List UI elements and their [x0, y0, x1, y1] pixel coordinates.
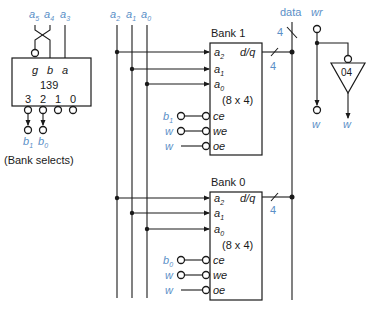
write-logic: wr 04 w w: [311, 6, 365, 130]
bank-0-oe-bubble: [203, 287, 210, 294]
bank-1-pin-ce: ce: [213, 110, 225, 122]
bank-0-pin-oe: oe: [213, 284, 225, 296]
bank-0-ce-terminal: [178, 257, 185, 264]
bank-0-pin-ce: ce: [213, 254, 225, 266]
w-label-inverted: w: [343, 118, 352, 130]
decoder-output-0: 0: [70, 93, 76, 105]
bank-0-ce-bubble: [203, 257, 210, 264]
decoder-pin-b: b: [47, 64, 53, 76]
decoder-out-bubble-1: [55, 107, 62, 114]
decoder-out-bubble-2: [40, 107, 47, 114]
address-label-a0: a0: [141, 8, 151, 22]
bank-0-we-terminal: [178, 272, 185, 279]
bank-select-label-b0: b0: [38, 135, 48, 149]
data-bus: data 4: [277, 6, 302, 300]
w-terminal: [314, 107, 321, 114]
bank-select-terminal-b0: [40, 127, 47, 134]
bank-0-title: Bank 0: [211, 176, 245, 188]
bank-1-oe-bubble: [203, 143, 210, 150]
bank-1-oe-signal: w: [165, 140, 174, 152]
bank-0-we-signal: w: [165, 269, 174, 281]
bank-1-we-signal: w: [165, 125, 174, 137]
decoder-139: a5 a4 a3 g b a 139 3 2 1 0 b1 b0 (Bank s…: [4, 8, 91, 166]
w-label-direct: w: [312, 118, 321, 130]
decoder-input-label-a5: a5: [29, 8, 39, 22]
decoder-input-label-a4: a4: [44, 8, 54, 22]
decoder-enable-bubble: [32, 50, 39, 57]
decoder-part-number: 139: [40, 79, 58, 91]
decoder-out-bubble-0: [70, 107, 77, 114]
decoder-pin-a: a: [62, 64, 68, 76]
bank-1-ce-bubble: [203, 113, 210, 120]
bank-select-label-b1: b1: [23, 135, 33, 149]
bank-0-pin-dq: d/q: [240, 192, 256, 204]
bank-0-size: (8 x 4): [222, 239, 253, 251]
bank-0-oe-signal: w: [165, 284, 174, 296]
decoder-out-bubble-3: [25, 107, 32, 114]
bank-0: Bank 0 a2 a1 a0 d/q (8 x 4) ce we oe b0 …: [115, 176, 295, 300]
decoder-output-3: 3: [25, 93, 31, 105]
bank-0-we-bubble: [203, 272, 210, 279]
bank-1-data-width: 4: [270, 60, 276, 72]
memory-bank-schematic: a5 a4 a3 g b a 139 3 2 1 0 b1 b0 (Bank s…: [0, 0, 383, 315]
address-label-a1: a1: [126, 8, 136, 22]
address-label-a2: a2: [110, 8, 120, 22]
bank-1-ce-signal: b1: [163, 110, 173, 124]
data-bus-width: 4: [277, 26, 283, 38]
decoder-pin-g: g: [32, 64, 39, 76]
bank-select-terminal-b1: [25, 127, 32, 134]
bank-1: Bank 1 a2 a1 a0 d/q (8 x 4) ce we oe b1 …: [115, 27, 295, 155]
wr-terminal: [314, 26, 321, 33]
wire-a4-to-g: [35, 25, 50, 49]
data-bus-label: data: [280, 6, 302, 18]
bank-1-pin-we: we: [213, 125, 227, 137]
bank-0-data-width: 4: [270, 204, 276, 216]
bank-0-pin-we: we: [213, 269, 227, 281]
bank-1-we-terminal: [178, 128, 185, 135]
decoder-output-1: 1: [55, 93, 61, 105]
bank-1-pin-oe: oe: [213, 140, 225, 152]
bank-1-pin-dq: d/q: [240, 46, 256, 58]
inverter-bubble: [345, 56, 352, 63]
decoder-input-label-a3: a3: [60, 8, 70, 22]
inverter-part-number: 04: [341, 67, 353, 78]
bank-1-we-bubble: [203, 128, 210, 135]
bank-0-ce-signal: b0: [163, 254, 173, 268]
bank-selects-caption: (Bank selects): [4, 154, 74, 166]
wr-label: wr: [311, 6, 324, 18]
bank-1-ce-terminal: [178, 113, 185, 120]
bank-1-size: (8 x 4): [222, 94, 253, 106]
wr-to-inverter-wire: [317, 43, 348, 55]
bank-1-title: Bank 1: [211, 27, 245, 39]
decoder-output-2: 2: [40, 93, 46, 105]
